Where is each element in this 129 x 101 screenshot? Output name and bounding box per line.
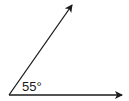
angle-label: 55° — [22, 80, 42, 93]
angle-figure — [0, 0, 129, 101]
angle-diagram: 55° — [0, 0, 129, 101]
